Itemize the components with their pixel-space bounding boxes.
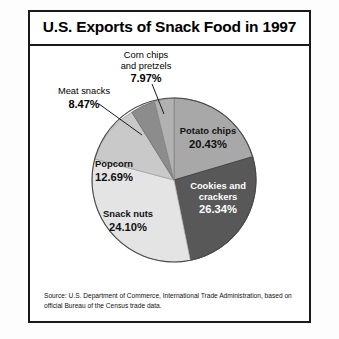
pie-label-cookies-percent: 26.34% xyxy=(179,203,257,216)
source-note-line-1: Source: U.S. Department of Commerce, Int… xyxy=(44,291,300,301)
pie-label-meat-name: Meat snacks xyxy=(42,86,126,97)
pie-label-meat-percent: 8.47% xyxy=(42,98,126,111)
pie-label-nuts-name: Snack nuts xyxy=(86,209,170,220)
pie-label-meat-snacks: Meat snacks 8.47% xyxy=(42,86,126,110)
pie-label-popcorn: Popcorn 12.69% xyxy=(76,159,152,183)
pie-chart: Corn chips and pretzels 7.97% Meat snack… xyxy=(0,0,339,339)
pie-label-cookies-and-crackers: Cookies and crackers 26.34% xyxy=(179,181,257,216)
pie-label-potato-percent: 20.43% xyxy=(166,138,250,151)
pie-label-corn-name-line-1: Corn chips xyxy=(103,50,189,61)
source-note: Source: U.S. Department of Commerce, Int… xyxy=(44,291,300,311)
pie-label-cookies-name-line-2: crackers xyxy=(179,192,257,203)
pie-label-snack-nuts: Snack nuts 24.10% xyxy=(86,209,170,233)
pie-label-nuts-percent: 24.10% xyxy=(86,221,170,234)
pie-label-corn-percent: 7.97% xyxy=(103,72,189,85)
figure-root: U.S. Exports of Snack Food in 1997 Corn … xyxy=(0,0,339,339)
pie-label-potato-chips: Potato chips 20.43% xyxy=(166,126,250,150)
source-note-line-2: official Bureau of the Census trade data… xyxy=(44,301,300,311)
pie-label-cookies-name-line-1: Cookies and xyxy=(179,181,257,192)
pie-label-popcorn-name: Popcorn xyxy=(76,159,152,170)
pie-label-potato-name: Potato chips xyxy=(166,126,250,137)
pie-label-corn-name-line-2: and pretzels xyxy=(103,61,189,72)
pie-label-corn-chips-and-pretzels: Corn chips and pretzels 7.97% xyxy=(103,50,189,85)
pie-label-popcorn-percent: 12.69% xyxy=(76,171,152,184)
